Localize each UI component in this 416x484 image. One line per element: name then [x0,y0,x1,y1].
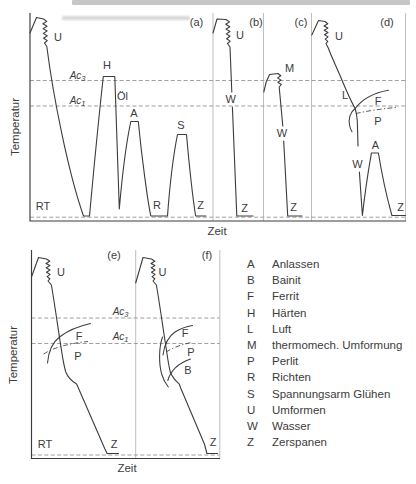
legend-key: A [247,258,272,270]
legend-key: W [247,420,272,432]
legend-key: R [247,371,272,383]
figure-bottom-diagram: (e) (f) Ac3 Ac1 U F P Z RT U F P B Z Tem… [0,248,240,484]
legend-item-richten: RRichten [247,369,415,385]
legend-key: U [247,404,272,416]
legend-item-perlit: PPerlit [247,353,415,369]
y-axis-title-top: Temperatur [9,98,21,156]
label-f-b: B [184,364,191,376]
y-axis-title-bottom: Temperatur [7,326,19,384]
label-b-w: W [226,93,237,105]
label-a-oel: Öl [117,90,128,102]
legend-item-ferrit: FFerrit [247,288,415,304]
label-e-f: F [76,330,83,342]
label-a-z: Z [197,199,204,211]
label-f-p: P [187,346,194,358]
legend-label: Anlassen [272,258,319,270]
legend-label: Luft [272,323,291,335]
panel-label-c: (c) [295,16,308,28]
label-f-z: Z [210,436,217,448]
curve-b-upper [213,19,232,92]
x-axis-title-top: Zeit [207,225,227,237]
legend-label: Umformen [272,404,326,416]
label-d-z: Z [397,201,404,213]
curve-c-upper [264,74,283,127]
label-d-f: F [375,95,382,107]
ttt-d-perlit-line [356,107,398,113]
legend-label: Spannungsarm Glühen [272,388,390,400]
ttt-d-left-arc [349,109,355,132]
label-d-l: L [342,89,348,101]
label-e-p: P [74,350,81,362]
label-b-u: U [236,29,244,41]
legend-label: Ferrit [272,290,299,302]
legend-item-anlassen: AAnlassen [247,256,415,272]
legend-label: Härten [272,307,307,319]
label-a-h: H [103,59,111,71]
panel-label-f: (f) [202,249,212,261]
label-c-m: M [285,62,294,74]
legend-label: Zerspanen [272,436,327,448]
legend-item-bainit: BBainit [247,272,415,288]
label-d-w: W [352,158,363,170]
legend-key: H [247,307,272,319]
ac3-label-bottom: Ac3 [112,306,130,319]
ac1-label-bottom: Ac1 [112,331,129,344]
label-a-s: S [177,119,184,131]
label-a-r: R [153,199,161,211]
legend-item-zerspanen: ZZerspanen [247,434,415,450]
label-f-f: F [182,327,189,339]
legend-item-thermomech: Mthermomech. Umformung [247,337,415,353]
label-e-z: Z [111,438,118,450]
legend-label: Wasser [272,420,311,432]
legend-key: Z [247,436,272,448]
label-c-w: W [277,127,288,139]
legend-item-spannungsarm: SSpannungsarm Glühen [247,386,415,402]
legend-item-haerten: HHärten [247,305,415,321]
x-axis-title-bottom: Zeit [117,462,137,474]
label-e-u: U [57,266,65,278]
figure-top-diagram: (a) (b) (c) (d) Ac3 Ac1 U H Öl A S R Z R… [0,0,416,248]
ttt-f-left-arc [160,337,169,387]
label-d-p: P [374,115,381,127]
legend-item-wasser: WWasser [247,418,415,434]
legend-key: L [247,323,272,335]
label-a-u: U [54,31,62,43]
legend-key: P [247,355,272,367]
label-d-u: U [335,30,343,42]
legend-label: thermomech. Umformung [272,339,402,351]
panel-label-e: (e) [107,249,120,261]
label-a-a: A [130,107,138,119]
label-b-z: Z [241,202,248,214]
legend-key: B [247,274,272,286]
panel-label-a: (a) [190,16,203,28]
legend-item-luft: LLuft [247,321,415,337]
legend: AAnlassen BBainit FFerrit HHärten LLuft … [247,256,415,450]
legend-label: Bainit [272,274,301,286]
legend-item-umformen: UUmformen [247,402,415,418]
label-d-a: A [372,139,380,151]
curve-b-lower [232,107,253,216]
label-c-z: Z [290,201,297,213]
label-rt-bottom: RT [38,438,53,450]
curve-a [30,18,206,217]
legend-key: M [247,339,272,351]
panel-label-b: (b) [249,16,262,28]
legend-key: S [247,388,272,400]
panel-label-d: (d) [380,16,393,28]
legend-label: Perlit [272,355,298,367]
label-f-u: U [159,266,167,278]
legend-key: F [247,290,272,302]
label-rt-top: RT [36,200,51,212]
curve-f [136,258,218,454]
legend-label: Richten [272,371,311,383]
